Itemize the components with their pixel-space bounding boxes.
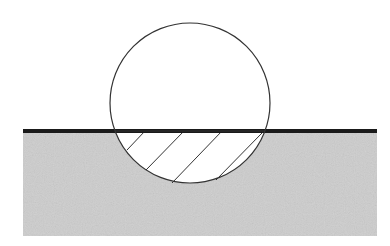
submerged-sphere-diagram bbox=[0, 0, 390, 246]
